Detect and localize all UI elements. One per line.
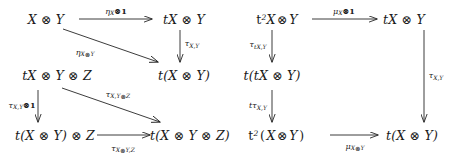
node-l-ml: tX ⊗ Y ⊗ Z [22, 68, 92, 83]
arrow-label-l-left-vert: τX,Y⊗1 [8, 100, 35, 110]
arrow-label-r-bottom: μX⊗Y [345, 142, 364, 153]
node-l-br: t(X ⊗ Y ⊗ Z) [150, 128, 230, 143]
node-l-tr: tX ⊗ Y [163, 12, 205, 27]
arrow-label-r-right: τX,Y [429, 71, 444, 80]
arrow-label-r-left2: tτX,Y [249, 101, 267, 110]
node-r-br: t(X ⊗ Y) [386, 128, 438, 143]
arrow-label-l-bottom: τX⊗Y,Z [111, 144, 135, 155]
arrow-label-r-left1: τtX,Y [249, 40, 266, 49]
node-l-tl: X ⊗ Y [28, 12, 65, 27]
node-r-tl: t2X⊗Y [256, 12, 297, 27]
arrow-label-r-top: μX⊗1 [333, 6, 355, 16]
arrow-label-l-right1: τX,Y [185, 39, 200, 48]
arrow-label-l-top: ηX⊗1 [105, 6, 127, 16]
arrow-label-l-diag1: ηX⊗Y [76, 48, 95, 59]
diagram-canvas: X ⊗ Y tX ⊗ Y tX ⊗ Y ⊗ Z t(X ⊗ Y) t(X ⊗ Y… [0, 0, 456, 166]
node-l-mr: t(X ⊗ Y) [158, 68, 210, 83]
arrow-label-l-diag2: τX,Y⊗Z [106, 90, 130, 101]
node-r-tr: tX ⊗ Y [383, 12, 425, 27]
node-r-bl: t2(X⊗Y) [248, 128, 306, 143]
node-r-ml: t(tX ⊗ Y) [243, 68, 300, 83]
node-l-bl: t(X ⊗ Y) ⊗ Z [15, 128, 95, 143]
